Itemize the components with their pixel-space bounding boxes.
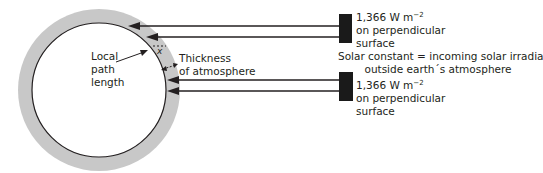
local-path-label: Local path length — [91, 50, 124, 89]
earth-atmosphere-diagram — [0, 0, 543, 173]
local-path-line-3: length — [91, 76, 124, 89]
irradiance-bottom-line2: on perpendicular — [356, 92, 445, 105]
bottom-ray-pair — [167, 76, 341, 95]
thickness-line-2: of atmosphere — [179, 65, 255, 78]
sun-source-block-top — [339, 14, 352, 43]
earth-circle — [32, 23, 166, 157]
irradiance-top-exponent: −2 — [413, 11, 423, 19]
irradiance-bottom-line3: surface — [356, 105, 445, 118]
thickness-line-1: Thickness — [179, 52, 255, 65]
irradiance-label-top: 1,366 W m−2 on perpendicular surface — [356, 11, 445, 50]
thickness-label: Thickness of atmosphere — [179, 52, 255, 78]
solar-constant-label: Solar constant = incoming solar irradian… — [338, 50, 538, 76]
local-path-line-2: path — [91, 63, 124, 76]
sun-source-block-bottom — [339, 72, 353, 101]
irradiance-top-line3: surface — [356, 37, 445, 50]
solar-constant-line-1: Solar constant = incoming solar irradian… — [338, 50, 538, 63]
irradiance-top-line2: on perpendicular — [356, 24, 445, 37]
irradiance-bottom-exponent: −2 — [413, 79, 423, 87]
x-marker-label: x — [157, 45, 162, 58]
irradiance-top-value: 1,366 W m — [356, 11, 413, 23]
irradiance-bottom-value: 1,366 W m — [356, 79, 413, 91]
solar-constant-line-2: outside earth´s atmosphere — [338, 63, 538, 76]
irradiance-label-bottom: 1,366 W m−2 on perpendicular surface — [356, 79, 445, 118]
local-path-line-1: Local — [91, 50, 124, 63]
